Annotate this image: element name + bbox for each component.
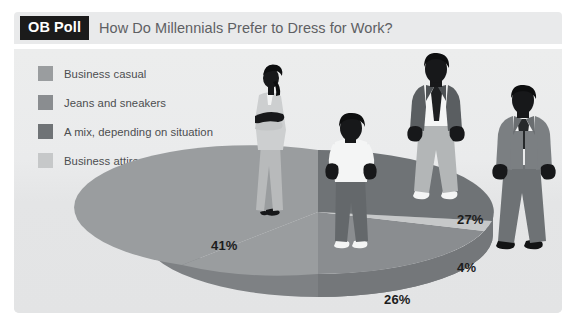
chart-panel: Business casual Jeans and sneakers A mix… <box>14 49 562 313</box>
value-label-mix: 27% <box>457 212 484 227</box>
figure-woman-business-casual-suit <box>236 60 302 220</box>
poll-badge: OB Poll <box>20 16 89 40</box>
figure-person-jeans-sneakers <box>315 113 387 254</box>
figure-man-mix-blazer-sneakers <box>398 53 474 205</box>
value-label-business-casual: 41% <box>211 238 238 253</box>
header-band: OB Poll How Do Millennials Prefer to Dre… <box>14 12 562 44</box>
value-label-jeans-sneakers: 26% <box>384 292 411 307</box>
value-label-business-attire: 4% <box>457 260 476 275</box>
page-title: How Do Millennials Prefer to Dress for W… <box>99 20 393 36</box>
poll-infographic: OB Poll How Do Millennials Prefer to Dre… <box>0 0 576 330</box>
figure-man-business-attire-suit <box>486 85 562 257</box>
